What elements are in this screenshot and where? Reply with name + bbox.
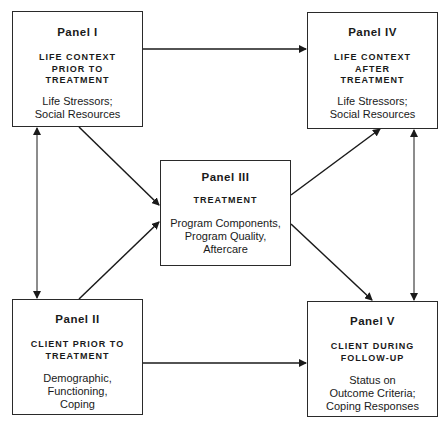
panel-heading: CLIENT PRIOR TO TREATMENT bbox=[13, 339, 142, 362]
panel-heading-line: CLIENT DURING bbox=[308, 341, 437, 353]
panel-body-line: Social Resources bbox=[308, 108, 437, 121]
panel-body-line: Demographic, bbox=[13, 372, 142, 385]
panel-title: Panel V bbox=[308, 315, 437, 327]
panel-title: Panel IV bbox=[308, 26, 437, 38]
panel-body-line: Aftercare bbox=[161, 243, 290, 256]
panel-body: Demographic, Functioning, Coping bbox=[13, 372, 142, 411]
panel-heading-line: CLIENT PRIOR TO bbox=[13, 339, 142, 351]
panel-body: Program Components, Program Quality, Aft… bbox=[161, 217, 290, 256]
panel-heading-line: FOLLOW-UP bbox=[308, 353, 437, 365]
arrow-panel3-to-panel5 bbox=[291, 224, 372, 300]
panel-title: Panel I bbox=[13, 26, 142, 38]
arrow-panel2-to-panel3 bbox=[79, 222, 159, 299]
panel-3: Panel III TREATMENT Program Components, … bbox=[160, 160, 291, 266]
panel-heading: LIFE CONTEXT PRIOR TO TREATMENT bbox=[13, 52, 142, 87]
panel-heading: CLIENT DURING FOLLOW-UP bbox=[308, 341, 437, 364]
panel-body-line: Functioning, bbox=[13, 385, 142, 398]
panel-body-line: Coping bbox=[13, 398, 142, 411]
panel-heading-line: TREATMENT bbox=[13, 351, 142, 363]
arrow-panel3-to-panel4 bbox=[291, 129, 380, 195]
panel-body-line: Social Resources bbox=[13, 108, 142, 121]
panel-4: Panel IV LIFE CONTEXT AFTER TREATMENT Li… bbox=[307, 12, 438, 129]
panel-heading-line: PRIOR TO bbox=[13, 64, 142, 76]
panel-heading-line: LIFE CONTEXT bbox=[13, 52, 142, 64]
arrow-panel1-to-panel3 bbox=[79, 127, 159, 205]
panel-body: Life Stressors; Social Resources bbox=[13, 95, 142, 121]
panel-body: Status on Outcome Criteria; Coping Respo… bbox=[308, 374, 437, 413]
panel-heading-line: TREATMENT bbox=[161, 195, 290, 207]
panel-2: Panel II CLIENT PRIOR TO TREATMENT Demog… bbox=[12, 299, 143, 415]
panel-heading-line: TREATMENT bbox=[308, 75, 437, 87]
panel-heading: LIFE CONTEXT AFTER TREATMENT bbox=[308, 52, 437, 87]
panel-body-line: Program Components, bbox=[161, 217, 290, 230]
panel-heading-line: LIFE CONTEXT bbox=[308, 52, 437, 64]
panel-5: Panel V CLIENT DURING FOLLOW-UP Status o… bbox=[307, 301, 438, 417]
panel-body-line: Status on bbox=[308, 374, 437, 387]
panel-title: Panel II bbox=[13, 313, 142, 325]
panel-heading-line: TREATMENT bbox=[13, 75, 142, 87]
panel-title: Panel III bbox=[161, 171, 290, 183]
panel-body-line: Program Quality, bbox=[161, 230, 290, 243]
panel-body-line: Life Stressors; bbox=[308, 95, 437, 108]
panel-heading: TREATMENT bbox=[161, 195, 290, 207]
panel-body: Life Stressors; Social Resources bbox=[308, 95, 437, 121]
panel-body-line: Coping Responses bbox=[308, 400, 437, 413]
panel-body-line: Outcome Criteria; bbox=[308, 387, 437, 400]
panel-1: Panel I LIFE CONTEXT PRIOR TO TREATMENT … bbox=[12, 11, 143, 127]
panel-body-line: Life Stressors; bbox=[13, 95, 142, 108]
panel-heading-line: AFTER bbox=[308, 64, 437, 76]
